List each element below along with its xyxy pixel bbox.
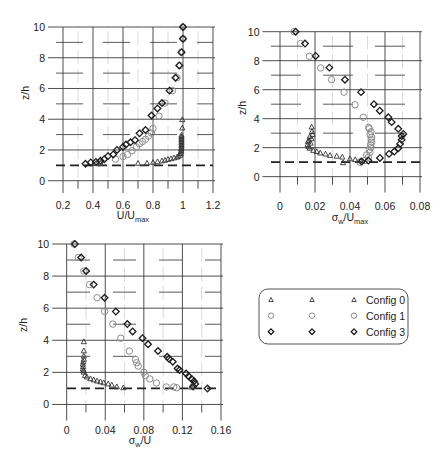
diamond-marker xyxy=(148,112,155,119)
x-axis-label: σw/U xyxy=(129,434,151,449)
triangle-marker xyxy=(323,151,328,156)
y-tick-label: 0 xyxy=(254,171,260,183)
x-axis-label: U/Umax xyxy=(117,209,150,224)
y-tick-label: 10 xyxy=(248,26,260,38)
circle-marker xyxy=(101,308,107,314)
figure: 02468100.20.40.60.811.2U/Umaxz/h02468100… xyxy=(0,0,444,470)
x-tick-label: 0.16 xyxy=(211,424,232,436)
y-tick-label: 8 xyxy=(39,52,45,64)
y-tick-label: 2 xyxy=(254,142,260,154)
x-tick-label: 0.4 xyxy=(86,199,101,211)
circle-marker xyxy=(153,380,159,386)
figure-canvas: 02468100.20.40.60.811.2U/Umaxz/h02468100… xyxy=(0,0,444,470)
circle-marker xyxy=(360,114,366,120)
diamond-marker xyxy=(155,348,162,355)
circle-marker xyxy=(94,295,100,301)
x-axis-label-subscript: max xyxy=(354,217,368,226)
subplot-sigma-w-over-umax: 024681000.020.040.060.08σw/Umaxz/h xyxy=(236,26,430,226)
diamond-marker xyxy=(376,107,383,114)
triangle-marker xyxy=(309,124,314,129)
gridlines xyxy=(48,27,215,193)
y-axis-label: z/h xyxy=(19,86,31,100)
circle-marker xyxy=(352,102,358,108)
legend-label: Config 1 xyxy=(366,310,405,322)
subplot-velocity-profile: 02468100.20.40.60.811.2U/Umaxz/h xyxy=(19,21,220,224)
diamond-marker xyxy=(377,155,384,162)
x-axis-label-text: /U xyxy=(141,434,152,446)
diamond-marker xyxy=(326,64,333,71)
circle-marker xyxy=(317,65,323,71)
x-tick-label: 0.08 xyxy=(410,200,431,212)
data-points xyxy=(82,24,186,167)
y-tick-label: 4 xyxy=(39,113,45,125)
triangle-marker xyxy=(144,160,149,165)
diamond-marker xyxy=(342,76,349,83)
legend-label: Config 3 xyxy=(366,326,405,338)
y-tick-label: 10 xyxy=(33,21,45,33)
y-axis-label: z/h xyxy=(17,318,29,332)
circle-marker xyxy=(306,53,312,59)
circle-marker xyxy=(126,348,132,354)
y-tick-label: 8 xyxy=(254,55,260,67)
circle-marker xyxy=(86,281,92,287)
triangle-marker xyxy=(334,153,339,158)
series-config-3 xyxy=(82,24,186,167)
y-tick-label: 8 xyxy=(43,270,49,282)
diamond-marker xyxy=(169,358,176,365)
x-tick-label: 1 xyxy=(180,199,186,211)
data-points xyxy=(291,28,407,165)
x-tick-label: 1.2 xyxy=(206,199,221,211)
circle-marker xyxy=(178,49,184,55)
y-tick-label: 2 xyxy=(39,144,45,156)
diamond-marker xyxy=(136,130,143,137)
diamond-marker xyxy=(132,137,139,144)
diamond-marker xyxy=(395,126,402,133)
x-tick-label: 0.8 xyxy=(146,199,161,211)
y-tick-label: 0 xyxy=(39,175,45,187)
gridlines xyxy=(263,32,423,193)
legend: Config 0Config 1Config 3 xyxy=(259,289,408,344)
series-config-1 xyxy=(96,24,186,166)
y-tick-label: 6 xyxy=(43,302,49,314)
circle-marker xyxy=(328,76,334,82)
y-axis-label: z/h xyxy=(236,101,248,115)
x-tick-label: 0 xyxy=(64,424,70,436)
diamond-marker xyxy=(113,308,120,315)
gridlines xyxy=(52,244,223,421)
diamond-marker xyxy=(142,127,149,134)
circle-marker xyxy=(147,376,153,382)
triangle-marker xyxy=(340,154,345,159)
data-points xyxy=(71,241,211,392)
x-tick-label: 0.06 xyxy=(375,200,396,212)
x-tick-label: 0.04 xyxy=(95,424,116,436)
triangle-marker xyxy=(353,157,358,162)
y-tick-label: 4 xyxy=(43,334,49,346)
series-config-0 xyxy=(305,124,363,164)
triangle-marker xyxy=(81,339,86,344)
y-tick-label: 0 xyxy=(43,398,49,410)
series-config-0 xyxy=(80,339,195,390)
x-axis-label-text: /U xyxy=(344,211,355,223)
x-tick-label: 0.02 xyxy=(305,200,326,212)
diamond-marker xyxy=(129,328,136,335)
x-axis-label: σw/Umax xyxy=(332,211,369,226)
x-tick-label: 0.2 xyxy=(56,199,71,211)
diamond-marker xyxy=(127,139,134,146)
triangle-marker xyxy=(180,125,185,130)
x-axis-label-text: U/U xyxy=(117,209,135,221)
x-tick-label: 0 xyxy=(277,200,283,212)
y-tick-label: 6 xyxy=(254,84,260,96)
y-tick-label: 2 xyxy=(43,366,49,378)
x-axis-label-subscript: max xyxy=(135,215,149,224)
diamond-marker xyxy=(312,53,319,60)
y-tick-label: 6 xyxy=(39,82,45,94)
circle-marker xyxy=(156,113,162,119)
diamond-marker xyxy=(154,105,161,112)
series-config-3 xyxy=(72,241,211,392)
subplot-sigma-w-over-u: 024681000.040.080.120.16σw/Uz/h xyxy=(17,238,231,449)
diamond-marker xyxy=(101,294,108,301)
triangle-marker xyxy=(327,153,332,158)
y-tick-label: 4 xyxy=(254,113,260,125)
y-tick-label: 10 xyxy=(38,238,50,250)
legend-label: Config 0 xyxy=(366,294,405,306)
